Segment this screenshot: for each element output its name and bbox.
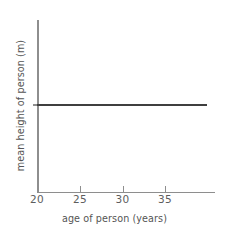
y-axis-label: mean height of person (m) <box>15 40 26 171</box>
x-axis-label: age of person (years) <box>0 213 229 224</box>
y-axis-line <box>37 20 39 193</box>
x-tick-label-20: 20 <box>25 193 49 205</box>
x-tick-label-35: 35 <box>153 193 177 205</box>
y-axis-label-container: mean height of person (m) <box>9 16 28 196</box>
x-tick-label-30: 30 <box>111 193 135 205</box>
chart-figure: 20 25 30 35 age of person (years) mean h… <box>0 0 229 245</box>
x-axis-tick-20 <box>37 186 38 192</box>
x-axis-tick-30 <box>123 186 124 192</box>
x-axis-tick-25 <box>80 186 81 192</box>
x-axis-tick-35 <box>165 186 166 192</box>
x-tick-label-25: 25 <box>68 193 92 205</box>
data-series-mean-height <box>37 104 207 106</box>
